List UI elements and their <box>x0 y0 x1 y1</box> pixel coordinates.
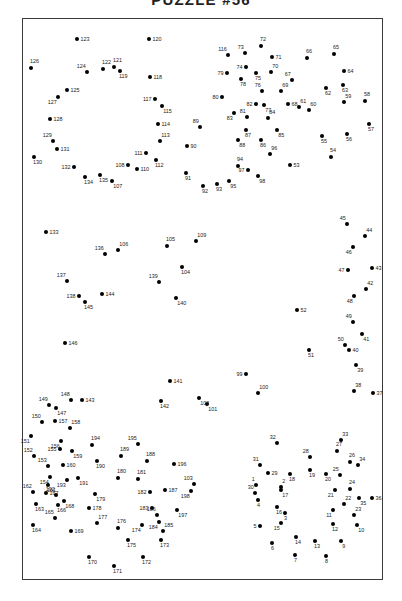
dot-marker <box>194 239 198 243</box>
dot-marker <box>69 529 73 533</box>
dot-marker <box>48 117 52 121</box>
dot-number-label: 91 <box>185 176 191 181</box>
dot-number-label: 15 <box>274 526 280 531</box>
dot-number-label: 7 <box>294 558 297 563</box>
dot-number-label: 10 <box>358 528 364 533</box>
dot-marker <box>244 372 248 376</box>
dot-number-label: 83 <box>227 116 233 121</box>
dot-number-label: 131 <box>60 147 69 152</box>
dot-number-label: 80 <box>213 95 219 100</box>
dot-number-label: 158 <box>71 420 80 425</box>
dot-marker <box>44 230 48 234</box>
dot-number-label: 13 <box>314 544 320 549</box>
dot-number-label: 130 <box>33 160 42 165</box>
dot-number-label: 86 <box>260 143 266 148</box>
dot-marker <box>185 144 189 148</box>
dot-number-label: 119 <box>119 74 128 79</box>
dot-marker <box>339 438 343 442</box>
dot-number-label: 143 <box>85 398 94 403</box>
dot-marker <box>246 168 250 172</box>
dot-marker <box>95 521 99 525</box>
dot-number-label: 175 <box>127 543 136 548</box>
dot-marker <box>308 455 312 459</box>
dot-number-label: 18 <box>289 477 295 482</box>
dot-marker <box>259 44 263 48</box>
dot-number-label: 48 <box>347 299 353 304</box>
dot-number-label: 148 <box>61 392 70 397</box>
dot-marker <box>29 66 33 70</box>
dot-number-label: 110 <box>140 167 149 172</box>
dot-number-label: 115 <box>163 109 172 114</box>
dot-marker <box>47 403 51 407</box>
dot-number-label: 125 <box>70 88 79 93</box>
dot-number-label: 76 <box>255 83 261 88</box>
dot-marker <box>329 155 333 159</box>
dot-number-label: 182 <box>138 490 147 495</box>
dot-marker <box>356 463 360 467</box>
dot-number-label: 151 <box>21 439 30 444</box>
dot-number-label: 159 <box>73 454 82 459</box>
dot-number-label: 177 <box>98 515 107 520</box>
dot-number-label: 142 <box>160 404 169 409</box>
dot-marker <box>342 502 346 506</box>
dot-number-label: 84 <box>269 110 275 115</box>
dot-number-label: 185 <box>164 523 173 528</box>
dot-marker <box>198 125 202 129</box>
dot-number-label: 94 <box>237 157 243 162</box>
dot-number-label: 153 <box>38 458 47 463</box>
dot-number-label: 55 <box>321 139 327 144</box>
dot-number-label: 184 <box>149 525 158 530</box>
dot-number-label: 103 <box>184 476 193 481</box>
dot-marker <box>288 163 292 167</box>
dot-number-label: 123 <box>80 37 89 42</box>
dot-number-label: 176 <box>117 519 126 524</box>
dot-marker <box>270 55 274 59</box>
dot-number-label: 40 <box>352 348 358 353</box>
dot-number-label: 173 <box>160 543 169 548</box>
dot-number-label: 78 <box>240 82 246 87</box>
dot-marker <box>352 389 356 393</box>
dot-number-label: 90 <box>190 144 196 149</box>
dot-marker <box>253 491 257 495</box>
dot-marker <box>148 75 152 79</box>
dot-number-label: 174 <box>132 528 141 533</box>
dot-number-label: 72 <box>260 37 266 42</box>
dot-marker <box>351 320 355 324</box>
dot-marker <box>342 100 346 104</box>
dot-number-label: 138 <box>67 294 76 299</box>
dot-number-label: 197 <box>178 513 187 518</box>
dot-number-label: 113 <box>161 133 170 138</box>
dot-number-label: 128 <box>53 117 62 122</box>
dot-number-label: 59 <box>345 94 351 99</box>
dot-number-label: 29 <box>271 471 277 476</box>
dot-number-label: 170 <box>88 560 97 565</box>
dot-number-label: 132 <box>62 165 71 170</box>
dot-number-label: 49 <box>346 314 352 319</box>
dot-marker <box>243 51 247 55</box>
dot-marker <box>72 165 76 169</box>
dot-number-label: 93 <box>216 187 222 192</box>
dot-number-label: 9 <box>342 544 345 549</box>
dot-number-label: 67 <box>285 72 291 77</box>
dot-number-label: 198 <box>181 494 190 499</box>
dot-marker <box>266 471 270 475</box>
dot-number-label: 16 <box>276 510 282 515</box>
dot-number-label: 74 <box>237 65 243 70</box>
dot-marker <box>65 88 69 92</box>
dot-marker <box>51 139 55 143</box>
dot-marker <box>348 487 352 491</box>
dot-marker <box>54 493 58 497</box>
dot-marker <box>295 308 299 312</box>
dot-number-label: 97 <box>239 168 245 173</box>
dot-number-label: 4 <box>257 503 260 508</box>
dot-number-label: 28 <box>303 449 309 454</box>
dot-number-label: 41 <box>363 337 369 342</box>
dot-number-label: 19 <box>309 473 315 478</box>
dot-marker <box>364 287 368 291</box>
dot-marker <box>290 78 294 82</box>
dot-number-label: 8 <box>325 559 328 564</box>
dot-number-label: 152 <box>24 448 33 453</box>
dot-number-label: 57 <box>368 127 374 132</box>
dot-number-label: 169 <box>74 529 83 534</box>
dot-marker <box>126 163 130 167</box>
